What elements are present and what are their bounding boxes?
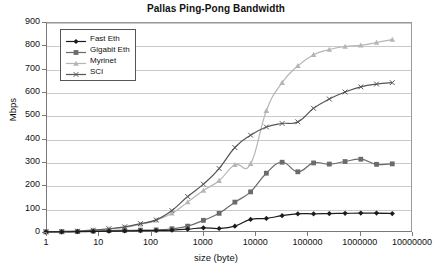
legend-marker-triangle-icon — [65, 55, 87, 66]
data-point-diamond — [217, 226, 222, 231]
x-axis-label: size (byte) — [0, 252, 432, 263]
data-point-diamond — [358, 211, 363, 216]
legend-marker-cross-icon — [65, 66, 87, 77]
legend: Fast EthGigabit EthMyrinetSCI — [60, 29, 136, 81]
y-tick-mark — [42, 22, 46, 23]
data-point-diamond — [279, 213, 284, 218]
legend-label: Myrinet — [87, 56, 116, 65]
series-line — [46, 159, 392, 232]
y-tick-label: 800 — [0, 39, 40, 49]
data-point-diamond — [390, 211, 395, 216]
data-point-cross — [201, 182, 206, 187]
data-point-cross — [185, 194, 190, 199]
y-tick-mark — [42, 185, 46, 186]
data-point-square — [232, 200, 237, 205]
data-point-square — [358, 157, 363, 162]
x-tick-mark — [307, 232, 308, 236]
data-point-diamond — [232, 224, 237, 229]
data-point-triangle — [201, 188, 207, 193]
legend-label: SCI — [87, 67, 103, 76]
data-point-cross — [295, 119, 300, 124]
y-tick-label: 700 — [0, 63, 40, 73]
legend-marker-diamond-icon — [65, 33, 87, 44]
x-tick-mark — [151, 232, 152, 236]
data-point-diamond — [327, 211, 332, 216]
legend-item-myrinet[interactable]: Myrinet — [65, 55, 130, 66]
legend-item-gigabit-eth[interactable]: Gigabit Eth — [65, 44, 130, 55]
x-tick-mark — [98, 232, 99, 236]
data-point-triangle — [248, 161, 254, 166]
data-point-square — [311, 161, 316, 166]
legend-label: Fast Eth — [87, 34, 120, 43]
data-point-square — [295, 169, 300, 174]
data-point-square — [201, 218, 206, 223]
y-tick-label: 200 — [0, 179, 40, 189]
chart-title: Pallas Ping-Pong Bandwidth — [0, 3, 432, 14]
x-tick-mark — [46, 232, 47, 236]
data-point-diamond — [201, 225, 206, 230]
data-point-square — [248, 189, 253, 194]
y-tick-mark — [42, 69, 46, 70]
series-line — [46, 83, 392, 232]
data-point-diamond — [374, 211, 379, 216]
legend-item-fast-eth[interactable]: Fast Eth — [65, 33, 130, 44]
legend-marker-square-icon — [65, 44, 87, 55]
x-tick-label: 10000000 — [372, 237, 437, 247]
data-point-cross — [232, 145, 237, 150]
x-tick-mark — [360, 232, 361, 236]
data-point-triangle — [264, 108, 270, 113]
y-tick-mark — [42, 162, 46, 163]
y-tick-mark — [42, 115, 46, 116]
data-point-square — [217, 211, 222, 216]
data-point-triangle — [389, 37, 395, 42]
data-point-cross — [217, 166, 222, 171]
data-point-square — [374, 162, 379, 167]
x-tick-mark — [203, 232, 204, 236]
legend-item-sci[interactable]: SCI — [65, 66, 130, 77]
y-tick-mark — [42, 139, 46, 140]
data-point-cross — [327, 97, 332, 102]
y-tick-mark — [42, 45, 46, 46]
data-point-triangle — [311, 52, 317, 57]
data-point-cross — [248, 133, 253, 138]
y-tick-mark — [42, 92, 46, 93]
y-tick-label: 100 — [0, 203, 40, 213]
y-tick-label: 300 — [0, 156, 40, 166]
x-tick-mark — [412, 232, 413, 236]
data-point-cross — [311, 106, 316, 111]
data-point-square — [280, 160, 285, 165]
data-point-square — [327, 162, 332, 167]
data-point-square — [264, 171, 269, 176]
data-point-diamond — [264, 216, 269, 221]
y-tick-label: 900 — [0, 16, 40, 26]
x-tick-mark — [255, 232, 256, 236]
data-point-diamond — [311, 211, 316, 216]
data-point-diamond — [248, 217, 253, 222]
y-tick-mark — [42, 209, 46, 210]
data-point-diamond — [342, 211, 347, 216]
data-point-square — [390, 161, 395, 166]
legend-label: Gigabit Eth — [87, 45, 130, 54]
y-axis-label: Mbps — [7, 80, 18, 140]
y-tick-label: 0 — [0, 226, 40, 236]
data-point-diamond — [295, 211, 300, 216]
data-point-square — [343, 159, 348, 164]
